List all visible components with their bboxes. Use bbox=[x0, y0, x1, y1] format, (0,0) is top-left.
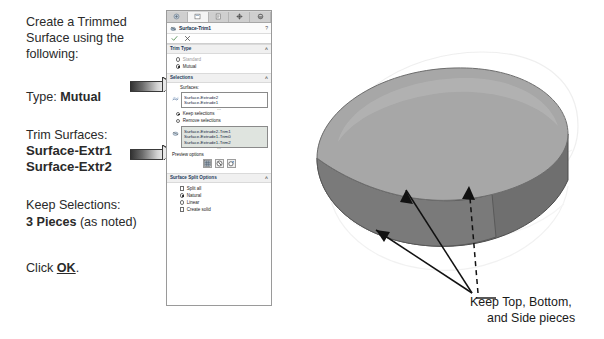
configuration-icon bbox=[215, 13, 222, 20]
display-manager-tab[interactable] bbox=[250, 12, 271, 22]
instruction-keep-value-rest: (as noted) bbox=[76, 215, 136, 229]
instruction-intro-line-1: Create a Trimmed bbox=[26, 14, 164, 30]
instruction-intro-line-3: following: bbox=[26, 46, 164, 62]
chevron-up-icon[interactable]: ^ bbox=[265, 47, 268, 52]
checkbox-create-solid[interactable] bbox=[180, 207, 184, 211]
radio-natural[interactable] bbox=[180, 193, 184, 197]
surfaces-listbox[interactable]: Surface-Extrude2 Surface-Extrude1 bbox=[181, 92, 268, 108]
surfaces-selection-row: Surface-Extrude2 Surface-Extrude1 bbox=[170, 92, 268, 108]
instruction-type-value: Mutual bbox=[60, 90, 101, 104]
chevron-up-icon[interactable]: ^ bbox=[265, 76, 268, 81]
section-header-selections[interactable]: Selections ^ bbox=[167, 73, 271, 83]
instruction-type-label: Type: bbox=[26, 90, 57, 104]
curvature-preview-button[interactable] bbox=[227, 159, 236, 168]
cancel-x-icon[interactable] bbox=[184, 35, 191, 42]
pieces-listbox[interactable]: Surface-Extrude2-Trim1 Surface-Extrude1-… bbox=[181, 126, 268, 147]
pieces-selection-row: Surface-Extrude2-Trim1 Surface-Extrude1-… bbox=[170, 126, 268, 147]
radio-standard[interactable] bbox=[176, 57, 180, 61]
radio-row-linear[interactable]: Linear bbox=[170, 199, 268, 206]
curvature-icon bbox=[228, 160, 235, 167]
trim-piece-icon bbox=[172, 130, 179, 137]
radio-row-remove-selections[interactable]: Remove selections bbox=[170, 117, 268, 124]
help-icon[interactable]: ? bbox=[265, 25, 268, 31]
radio-label-keep-selections: Keep selections bbox=[183, 111, 215, 117]
caption-line-2: and Side pieces bbox=[470, 310, 600, 326]
model-caption: Keep Top, Bottom, and Side pieces bbox=[470, 294, 600, 326]
checkbox-row-split-all[interactable]: Split all bbox=[170, 185, 268, 192]
checkbox-label-create-solid: Create solid bbox=[187, 207, 211, 213]
instruction-type: Type: Mutual bbox=[26, 89, 164, 105]
model-viewport bbox=[286, 8, 604, 308]
property-manager-tab-bar bbox=[167, 11, 271, 23]
instruction-keep-value-bold: 3 Pieces bbox=[26, 215, 76, 229]
configuration-manager-tab[interactable] bbox=[209, 12, 230, 22]
zebra-preview-button[interactable] bbox=[215, 159, 224, 168]
radio-row-natural[interactable]: Natural bbox=[170, 192, 268, 199]
surface-selection-icon bbox=[172, 96, 179, 103]
radio-keep-selections[interactable] bbox=[176, 112, 180, 116]
surfaces-label: Surfaces: bbox=[170, 85, 268, 91]
dimxpert-icon bbox=[236, 13, 243, 20]
instruction-trim-value-1: Surface-Extr1 bbox=[26, 143, 164, 159]
instruction-trim-surfaces: Trim Surfaces: Surface-Extr1 Surface-Ext… bbox=[26, 127, 164, 176]
preview-options-label: Preview options bbox=[170, 152, 268, 158]
property-manager-tab[interactable] bbox=[188, 12, 209, 22]
radio-mutual[interactable] bbox=[176, 64, 180, 68]
preview-options-buttons bbox=[170, 159, 268, 170]
ok-check-icon[interactable] bbox=[171, 35, 178, 42]
radio-row-mutual[interactable]: Mutual bbox=[170, 63, 268, 70]
dimxpert-manager-tab[interactable] bbox=[229, 12, 250, 22]
caption-line-1: Keep Top, Bottom, bbox=[470, 295, 572, 309]
instruction-click-prefix: Click bbox=[26, 261, 57, 275]
property-manager-title: Surface-Trim1 bbox=[179, 25, 265, 31]
property-manager-header: Surface-Trim1 ? bbox=[167, 23, 271, 34]
section-body-trim-type: Standard Mutual bbox=[167, 54, 271, 73]
instruction-trim-label: Trim Surfaces: bbox=[26, 127, 164, 143]
appearance-sphere-icon bbox=[257, 13, 264, 20]
feature-manager-tab[interactable] bbox=[167, 12, 188, 22]
section-title-surface-split-options: Surface Split Options bbox=[170, 175, 265, 181]
instruction-click-ok: Click OK. bbox=[26, 260, 164, 276]
instruction-keep-label: Keep Selections: bbox=[26, 197, 164, 213]
tree-icon bbox=[173, 13, 180, 20]
instruction-trim-value-2: Surface-Extr2 bbox=[26, 159, 164, 175]
radio-label-mutual: Mutual bbox=[183, 64, 197, 70]
radio-linear[interactable] bbox=[180, 200, 184, 204]
radio-row-standard[interactable]: Standard bbox=[170, 56, 268, 63]
instruction-click-ok-word: OK bbox=[57, 261, 76, 275]
instruction-keep-selections: Keep Selections: 3 Pieces (as noted) bbox=[26, 197, 164, 229]
radio-label-natural: Natural bbox=[187, 193, 202, 199]
section-header-surface-split-options[interactable]: Surface Split Options ^ bbox=[167, 173, 271, 183]
section-header-trim-type[interactable]: Trim Type ^ bbox=[167, 44, 271, 54]
instruction-click-suffix: . bbox=[76, 261, 80, 275]
radio-label-linear: Linear bbox=[187, 200, 200, 206]
trimmed-surface-3d-model bbox=[286, 8, 604, 308]
radio-remove-selections[interactable] bbox=[176, 119, 180, 123]
checkbox-row-create-solid[interactable]: Create solid bbox=[170, 206, 268, 213]
zebra-sphere-icon bbox=[216, 160, 223, 167]
checkbox-split-all[interactable] bbox=[180, 186, 184, 190]
ok-cancel-bar bbox=[167, 34, 271, 44]
shaded-preview-button[interactable] bbox=[203, 159, 212, 168]
section-body-selections: Surfaces: Surface-Extrude2 Surface-Extru… bbox=[167, 83, 271, 173]
surface-trim-icon bbox=[170, 25, 177, 32]
pieces-listbox-resize-grip[interactable]: ⋯ bbox=[170, 148, 268, 151]
section-body-surface-split-options: Split all Natural Linear Create solid bbox=[167, 183, 271, 216]
list-item[interactable]: Surface-Extrude1 bbox=[184, 100, 265, 105]
section-title-selections: Selections bbox=[170, 75, 265, 81]
instruction-intro: Create a Trimmed Surface using the follo… bbox=[26, 14, 164, 63]
list-item[interactable]: Surface-Extrude1-Trim2 bbox=[184, 140, 265, 145]
radio-label-standard: Standard bbox=[183, 57, 201, 63]
instruction-intro-line-2: Surface using the bbox=[26, 30, 164, 46]
shaded-grid-icon bbox=[204, 160, 211, 167]
instructions-panel: Create a Trimmed Surface using the follo… bbox=[26, 14, 164, 276]
chevron-up-icon[interactable]: ^ bbox=[265, 176, 268, 181]
property-panel-icon bbox=[194, 13, 201, 20]
checkbox-label-split-all: Split all bbox=[187, 186, 202, 192]
section-title-trim-type: Trim Type bbox=[170, 46, 265, 52]
property-manager-panel: Surface-Trim1 ? Trim Type ^ Standard Mut… bbox=[166, 10, 272, 306]
radio-label-remove-selections: Remove selections bbox=[183, 118, 221, 124]
